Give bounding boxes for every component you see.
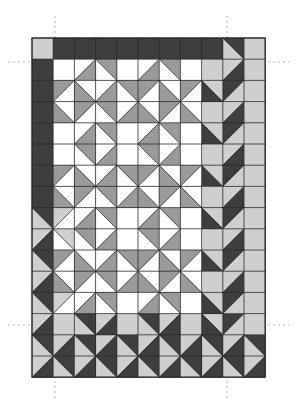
quilt-cell-solid [96, 38, 117, 59]
quilt-cell-solid [202, 144, 223, 165]
quilt-cell-solid [159, 38, 180, 59]
quilt-cell-solid [202, 186, 223, 207]
quilt-cell-solid [32, 59, 53, 80]
quilt-cell-solid [117, 59, 138, 80]
quilt-cell-solid [180, 123, 201, 144]
quilt-cell-solid [202, 102, 223, 123]
quilt-cell-solid [244, 59, 265, 80]
quilt-cell-solid [53, 38, 74, 59]
quilt-cell-solid [180, 144, 201, 165]
quilt-cell-solid [244, 123, 265, 144]
quilt-cell-solid [117, 144, 138, 165]
quilt-cell-solid [244, 165, 265, 186]
quilt-cell-solid [32, 102, 53, 123]
quilt-cell-solid [202, 271, 223, 292]
quilt-cell-solid [244, 144, 265, 165]
quilt-cell-solid [53, 123, 74, 144]
quilt-cell-solid [244, 250, 265, 271]
quilt-cell-solid [180, 38, 201, 59]
quilt-cell-solid [32, 165, 53, 186]
quilt-cell-solid [202, 59, 223, 80]
quilt-cell-solid [117, 38, 138, 59]
diagram-stage [0, 0, 298, 405]
quilt-cell-solid [244, 80, 265, 101]
quilt-cell-solid [117, 314, 138, 335]
quilt-pattern-diagram [0, 0, 298, 405]
quilt-cell-solid [53, 314, 74, 335]
quilt-cell-solid [74, 38, 95, 59]
quilt-cell-solid [244, 292, 265, 313]
quilt-cell-solid [32, 38, 53, 59]
quilt-cell-solid [32, 80, 53, 101]
quilt-cell-solid [117, 123, 138, 144]
quilt-cell-solid [244, 271, 265, 292]
quilt-cell-solid [244, 102, 265, 123]
quilt-cell-solid [202, 38, 223, 59]
quilt-cell-solid [244, 314, 265, 335]
quilt-cell-solid [117, 292, 138, 313]
quilt-cell-solid [180, 59, 201, 80]
quilt-cell-solid [202, 229, 223, 250]
quilt-cell-solid [53, 59, 74, 80]
quilt-cell-solid [180, 229, 201, 250]
quilt-cell-solid [244, 208, 265, 229]
quilt-cell-solid [244, 229, 265, 250]
quilt-cell-solid [117, 229, 138, 250]
quilt-cell-solid [138, 38, 159, 59]
quilt-cell-solid [180, 314, 201, 335]
quilt-cell-solid [32, 186, 53, 207]
quilt-cell-solid [53, 144, 74, 165]
quilt-cell-solid [117, 208, 138, 229]
quilt-cell-solid [180, 208, 201, 229]
quilt-cell-solid [32, 123, 53, 144]
quilt-cell-solid [32, 144, 53, 165]
quilt-cell-solid [244, 186, 265, 207]
quilt-cell-solid [180, 292, 201, 313]
quilt-cell-solid [244, 38, 265, 59]
